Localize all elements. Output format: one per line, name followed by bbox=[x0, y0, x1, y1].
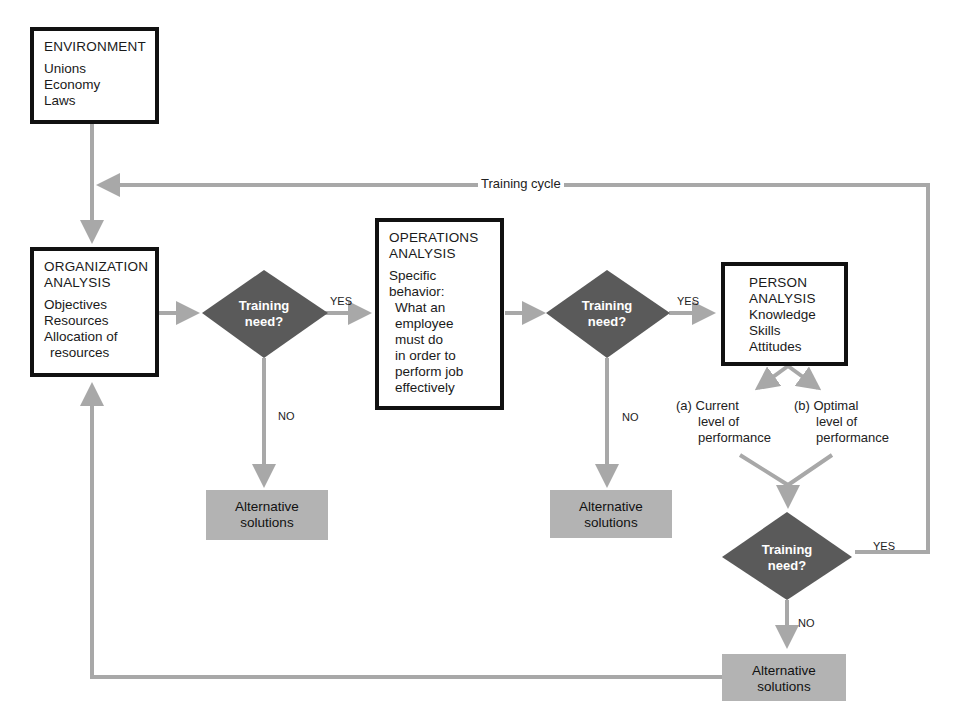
organization-title: ANALYSIS bbox=[44, 275, 145, 291]
operations-analysis-box: OPERATIONS ANALYSIS Specific behavior: W… bbox=[375, 218, 504, 410]
decision-text: Training bbox=[239, 298, 290, 313]
alternative-solutions-3: Alternative solutions bbox=[722, 654, 846, 701]
operations-item: perform job bbox=[389, 364, 490, 380]
person-title: PERSON bbox=[749, 275, 834, 291]
person-title: ANALYSIS bbox=[749, 291, 834, 307]
operations-item: Specific bbox=[389, 268, 490, 284]
organization-item: resources bbox=[44, 345, 145, 361]
organization-title: ORGANIZATION bbox=[44, 259, 145, 275]
environment-item: Laws bbox=[44, 93, 145, 109]
operations-item: employee bbox=[389, 316, 490, 332]
perf-line: level of bbox=[676, 414, 771, 430]
environment-item: Economy bbox=[44, 77, 145, 93]
alt-text: solutions bbox=[240, 515, 293, 530]
perf-line: performance bbox=[794, 430, 889, 446]
decision-2-yes: YES bbox=[677, 295, 699, 307]
decision-3-label: Training need? bbox=[742, 542, 832, 574]
environment-title: ENVIRONMENT bbox=[44, 39, 145, 55]
organization-analysis-box: ORGANIZATION ANALYSIS Objectives Resourc… bbox=[30, 247, 159, 377]
perf-line: level of bbox=[794, 414, 889, 430]
decision-2-no: NO bbox=[622, 411, 639, 423]
operations-item: What an bbox=[389, 300, 490, 316]
decision-1-yes: YES bbox=[330, 295, 352, 307]
optimal-performance-label: (b) Optimal level of performance bbox=[794, 398, 889, 446]
decision-text: Training bbox=[582, 298, 633, 313]
alt-text: Alternative bbox=[752, 663, 816, 678]
alt-text: Alternative bbox=[579, 499, 643, 514]
operations-item: behavior: bbox=[389, 284, 490, 300]
decision-text: Training bbox=[762, 542, 813, 557]
alt-text: solutions bbox=[757, 679, 810, 694]
decision-1-label: Training need? bbox=[219, 298, 309, 330]
operations-title: OPERATIONS bbox=[389, 230, 490, 246]
person-analysis-box: PERSON ANALYSIS Knowledge Skills Attitud… bbox=[721, 262, 848, 366]
organization-item: Objectives bbox=[44, 297, 145, 313]
environment-item: Unions bbox=[44, 61, 145, 77]
operations-item: in order to bbox=[389, 348, 490, 364]
person-item: Skills bbox=[749, 323, 834, 339]
alternative-solutions-2: Alternative solutions bbox=[550, 490, 672, 538]
alt-text: Alternative bbox=[235, 499, 299, 514]
organization-item: Allocation of bbox=[44, 329, 145, 345]
decision-text: need? bbox=[588, 314, 626, 329]
alt-text: solutions bbox=[584, 515, 637, 530]
person-item: Attitudes bbox=[749, 339, 834, 355]
decision-3-no: NO bbox=[798, 617, 815, 629]
decision-text: need? bbox=[245, 314, 283, 329]
decision-text: need? bbox=[768, 558, 806, 573]
operations-title: ANALYSIS bbox=[389, 246, 490, 262]
operations-item: effectively bbox=[389, 380, 490, 396]
organization-item: Resources bbox=[44, 313, 145, 329]
training-cycle-label: Training cycle bbox=[478, 176, 564, 191]
perf-line: (b) Optimal bbox=[794, 398, 889, 414]
perf-line: (a) Current bbox=[676, 398, 771, 414]
environment-box: ENVIRONMENT Unions Economy Laws bbox=[30, 27, 159, 124]
decision-3-yes: YES bbox=[873, 540, 895, 552]
current-performance-label: (a) Current level of performance bbox=[676, 398, 771, 446]
perf-line: performance bbox=[676, 430, 771, 446]
operations-item: must do bbox=[389, 332, 490, 348]
decision-2-label: Training need? bbox=[562, 298, 652, 330]
decision-1-no: NO bbox=[278, 410, 295, 422]
person-item: Knowledge bbox=[749, 307, 834, 323]
alternative-solutions-1: Alternative solutions bbox=[206, 490, 328, 540]
